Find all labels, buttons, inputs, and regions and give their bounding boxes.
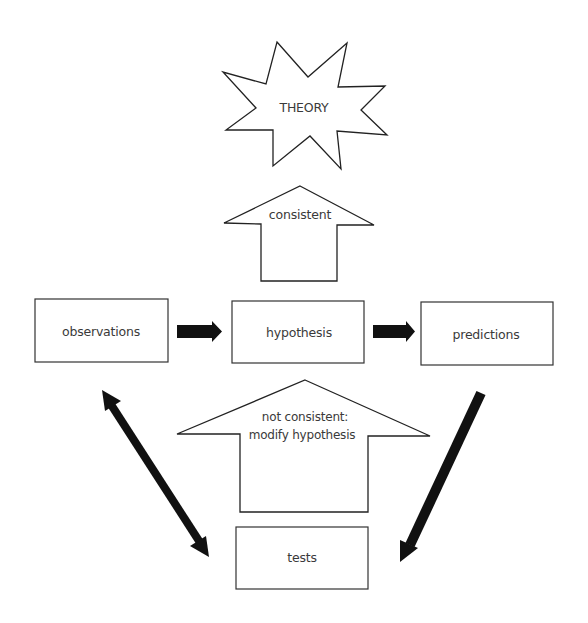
consistent-block-arrow	[224, 186, 374, 281]
tests-observations-double-arrow	[102, 390, 209, 557]
tests-label: tests	[287, 550, 317, 565]
hypothesis-to-predictions-arrow	[373, 321, 415, 342]
predictions-label: predictions	[452, 327, 519, 342]
observations-label: observations	[62, 324, 140, 339]
hypothesis-label: hypothesis	[266, 325, 332, 340]
observations-to-hypothesis-arrow	[177, 321, 222, 342]
predictions-to-tests-arrow	[400, 393, 481, 562]
not-consistent-block-arrow	[177, 380, 430, 512]
diagram-canvas	[0, 0, 588, 623]
theory-label: THEORY	[279, 100, 328, 115]
not-consistent-line2-label: modify hypothesis	[249, 428, 356, 443]
consistent-label: consistent	[269, 207, 331, 222]
not-consistent-line1-label: not consistent:	[262, 410, 348, 425]
